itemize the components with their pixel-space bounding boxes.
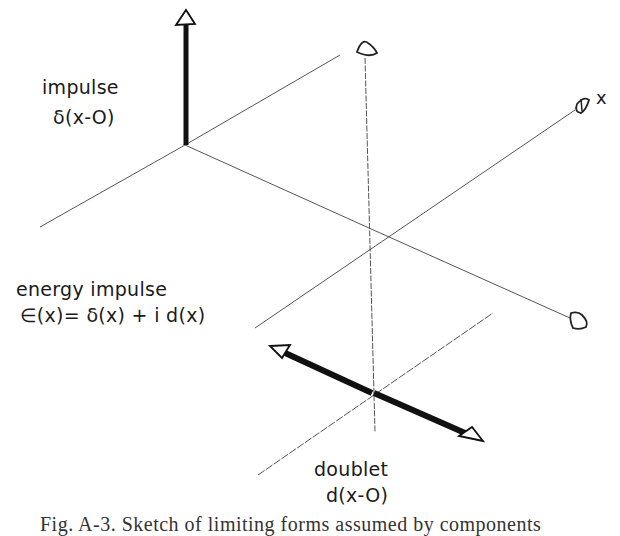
energy-impulse-formula: ∈(x)= δ(x) + i d(x) [20,303,205,327]
impulse-formula: δ(x-O) [53,105,115,129]
doublet-title: doublet [314,457,388,481]
center-axes [255,58,575,432]
impulse-axis-right [185,55,340,145]
x-axis-label: x [596,86,607,110]
x-axis-cone-seam [581,99,582,111]
energy-impulse-title: energy impulse [16,277,167,301]
doublet-arrow [270,345,483,441]
axis-end-markers [357,42,589,329]
impulse-axis-left [40,145,185,227]
vertical-axis [365,58,375,432]
impulse-arrow [176,10,195,145]
vertical-axis-cone-icon [357,42,377,56]
diagonal-axis [369,228,570,318]
impulse-title: impulse [42,75,119,99]
doublet-formula: d(x-O) [326,483,388,507]
impulse-arrowhead-icon [176,10,195,25]
x-axis [255,110,575,328]
figure-caption: Fig. A-3. Sketch of limiting forms assum… [40,513,541,536]
diagonal-axis-cone-icon [570,312,587,328]
impulse-diagonal [185,145,369,228]
